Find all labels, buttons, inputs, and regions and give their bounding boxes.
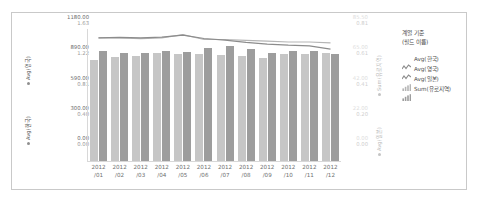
left-secondary-axis-title-label: Avg(한국) — [25, 116, 31, 140]
left-primary-axis-title-label: Avg(영국) — [25, 56, 31, 80]
legend: 계열 기준 (필드 이름) Avg(한국)Avg(영국)Avg(일본)Sum(유… — [402, 29, 472, 94]
x-tick-year: 2012 — [91, 164, 105, 170]
right-primary-axis-title-label: Sum(유로지역) — [376, 55, 382, 91]
x-tick-label: 2012/06 — [193, 164, 214, 179]
right-secondary-tick-4: 0.00 — [356, 141, 368, 147]
right-secondary-axis-title-label: Avg(일본) — [376, 127, 382, 151]
x-tick-year: 2012 — [155, 164, 169, 170]
x-tick-label: 2012/12 — [320, 164, 341, 179]
x-tick-year: 2012 — [260, 164, 274, 170]
legend-title-line2: (필드 이름) — [402, 38, 472, 47]
right-secondary-tick-1: 0.61 — [353, 50, 368, 56]
x-tick-month: /08 — [242, 172, 251, 178]
legend-item-3[interactable]: Avg(일본) — [402, 74, 472, 84]
x-tick-month: /01 — [94, 172, 103, 178]
x-tick-year: 2012 — [302, 164, 316, 170]
x-tick-label: 2012/11 — [299, 164, 320, 179]
right-secondary-tick-3: 0.20 — [353, 111, 368, 117]
plot-area — [88, 29, 341, 161]
series-marker-icon — [27, 82, 30, 85]
x-axis-tick-labels: 2012/012012/022012/032012/042012/052012/… — [88, 164, 341, 190]
x-tick-year: 2012 — [323, 164, 337, 170]
x-tick-month: /05 — [178, 172, 187, 178]
x-tick-month: /04 — [157, 172, 166, 178]
right-primary-axis-title: Sum(유로지역) — [375, 55, 382, 96]
chart-frame: Avg(영국) Avg(한국) 1180.00 1.63 890.00 1.22… — [11, 12, 467, 190]
line-chart-icon — [402, 56, 411, 63]
series-marker-icon — [378, 93, 381, 96]
legend-item-list: Avg(한국)Avg(영국)Avg(일본)Sum(유로지역) — [402, 54, 472, 94]
x-tick-label: 2012/02 — [109, 164, 130, 179]
x-tick-year: 2012 — [134, 164, 148, 170]
right-secondary-axis-title: Avg(일본) — [375, 127, 382, 156]
legend-title-line1: 계열 기준 — [402, 29, 472, 38]
legend-item-label: Avg(일본) — [414, 75, 439, 83]
x-tick-label: 2012/01 — [88, 164, 109, 179]
x-axis-line — [87, 161, 341, 162]
legend-item-1[interactable]: Avg(한국) — [402, 54, 472, 64]
left-primary-axis-title: Avg(영국) — [24, 56, 31, 85]
legend-item-4[interactable]: Sum(유로지역) — [402, 84, 472, 94]
x-tick-label: 2012/09 — [257, 164, 278, 179]
x-tick-month: /11 — [305, 172, 314, 178]
x-tick-label: 2012/08 — [236, 164, 257, 179]
legend-item-2[interactable]: Avg(영국) — [402, 64, 472, 74]
x-tick-month: /06 — [199, 172, 208, 178]
legend-item-label: Avg(한국) — [414, 55, 439, 63]
bar-chart-icon — [402, 76, 411, 83]
line-chart-icon — [402, 66, 411, 73]
legend-item-label: Avg(영국) — [414, 65, 439, 73]
right-axis-tick-labels: 85.50 0.81 65.00 0.61 42.00 0.41 22.00 0… — [332, 13, 368, 163]
x-tick-month: /02 — [115, 172, 124, 178]
x-tick-year: 2012 — [281, 164, 295, 170]
x-tick-label: 2012/07 — [215, 164, 236, 179]
left-secondary-tick-0: 1.63 — [67, 20, 89, 26]
x-tick-month: /10 — [284, 172, 293, 178]
x-tick-year: 2012 — [197, 164, 211, 170]
x-tick-month: /12 — [326, 172, 335, 178]
line-series-group — [88, 29, 341, 161]
legend-item-label: Sum(유로지역) — [414, 85, 451, 93]
right-secondary-tick-2: 0.41 — [353, 81, 368, 87]
x-tick-year: 2012 — [239, 164, 253, 170]
left-secondary-axis-title: Avg(한국) — [24, 116, 31, 145]
x-tick-month: /09 — [263, 172, 272, 178]
left-axis-tick-labels: 1180.00 1.63 890.00 1.22 590.00 0.81 300… — [36, 13, 89, 163]
x-tick-label: 2012/04 — [151, 164, 172, 179]
x-tick-year: 2012 — [176, 164, 190, 170]
x-tick-year: 2012 — [218, 164, 232, 170]
x-tick-label: 2012/05 — [172, 164, 193, 179]
x-tick-month: /07 — [221, 172, 230, 178]
x-tick-month: /03 — [136, 172, 145, 178]
series-marker-icon — [27, 142, 30, 145]
series-marker-icon — [378, 153, 381, 156]
x-tick-label: 2012/03 — [130, 164, 151, 179]
x-tick-label: 2012/10 — [278, 164, 299, 179]
x-tick-year: 2012 — [112, 164, 126, 170]
right-secondary-tick-0: 0.81 — [353, 20, 368, 26]
bar-chart-icon — [402, 86, 411, 93]
